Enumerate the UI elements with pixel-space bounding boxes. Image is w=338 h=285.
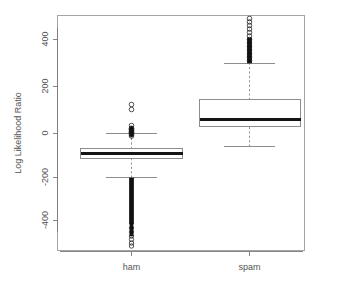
y-tick-label-0: 0 bbox=[40, 130, 50, 135]
boxplot-figure: 400 200 0 -200 -400 Log Likelihood Ratio… bbox=[0, 0, 338, 285]
box-group-ham bbox=[81, 102, 183, 248]
ham-outlier-cluster-upper bbox=[129, 123, 134, 138]
box-group-spam bbox=[200, 16, 301, 146]
x-category-label-spam: spam bbox=[238, 262, 260, 272]
plot-frame bbox=[58, 16, 305, 251]
ham-outlier-high bbox=[129, 107, 134, 112]
y-tick-label-400: 400 bbox=[40, 31, 50, 46]
y-tick-label-neg200: -200 bbox=[40, 168, 50, 186]
boxplot-canvas: 400 200 0 -200 -400 Log Likelihood Ratio… bbox=[0, 0, 338, 285]
x-category-label-ham: ham bbox=[123, 262, 141, 272]
y-axis-title: Log Likelihood Ratio bbox=[13, 92, 23, 174]
y-tick-label-neg400: -400 bbox=[40, 211, 50, 229]
ham-outlier-cluster-lower bbox=[129, 178, 133, 248]
y-tick-label-200: 200 bbox=[40, 78, 50, 93]
ham-outlier-high bbox=[129, 102, 134, 107]
spam-box bbox=[200, 100, 301, 127]
spam-outlier-cluster-upper bbox=[247, 16, 252, 63]
